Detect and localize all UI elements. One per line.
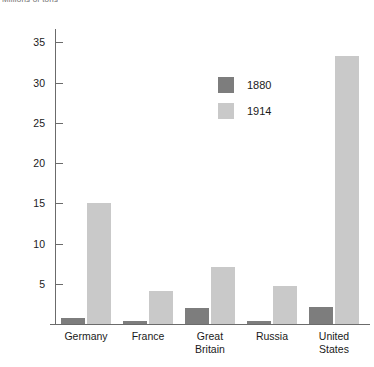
y-tick-label-5: 5	[19, 279, 45, 289]
legend-swatch-icon-1880	[218, 77, 234, 93]
y-tick-label-30: 30	[19, 78, 45, 88]
y-tick-25	[56, 123, 63, 124]
bar-1880-3	[247, 321, 271, 324]
bar-1880-1	[123, 321, 147, 324]
y-axis-line	[55, 29, 56, 325]
legend-label-1914: 1914	[247, 105, 271, 117]
y-tick-label-15: 15	[19, 198, 45, 208]
bar-1880-2	[185, 308, 209, 324]
bar-1914-3	[273, 286, 297, 324]
legend-label-1880: 1880	[247, 79, 271, 91]
y-tick-label-20: 20	[19, 158, 45, 168]
legend-item-1880: 1880	[218, 75, 271, 95]
y-tick-30	[56, 83, 63, 84]
y-tick-label-10: 10	[19, 239, 45, 249]
bar-1914-2	[211, 267, 235, 324]
bar-1914-1	[149, 291, 173, 324]
y-tick-35	[56, 42, 63, 43]
x-axis-line	[50, 324, 370, 325]
plot-area: 5101520253035 GermanyFranceGreatBritainR…	[55, 25, 370, 325]
bar-1914-0	[87, 203, 111, 324]
y-tick-label-25: 25	[19, 118, 45, 128]
legend-swatch-icon-1914	[218, 103, 234, 119]
y-tick-5	[56, 284, 63, 285]
legend-item-1914: 1914	[218, 101, 271, 121]
y-tick-label-35: 35	[19, 37, 45, 47]
y-tick-20	[56, 163, 63, 164]
bar-1880-4	[309, 307, 333, 324]
y-tick-10	[56, 244, 63, 245]
chart-title: Millions of tons	[2, 0, 58, 2]
bar-1914-4	[335, 56, 359, 324]
bar-chart: Millions of tons 5101520253035 GermanyFr…	[0, 0, 374, 367]
x-label-4: UnitedStates	[295, 330, 373, 355]
chart-legend: 1880 1914	[218, 75, 271, 127]
y-tick-15	[56, 203, 63, 204]
bar-1880-0	[61, 318, 85, 324]
